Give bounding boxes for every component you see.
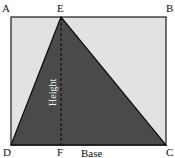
base-label: Base [81,147,103,158]
label-a: A [2,2,10,14]
label-c: C [166,146,173,158]
label-b: B [166,2,173,14]
label-d: D [3,146,11,158]
label-e: E [57,2,64,14]
label-f: F [57,146,63,158]
height-label: Height [47,79,58,106]
triangle-rectangle-diagram: A E B D F C Base Height [0,0,175,158]
